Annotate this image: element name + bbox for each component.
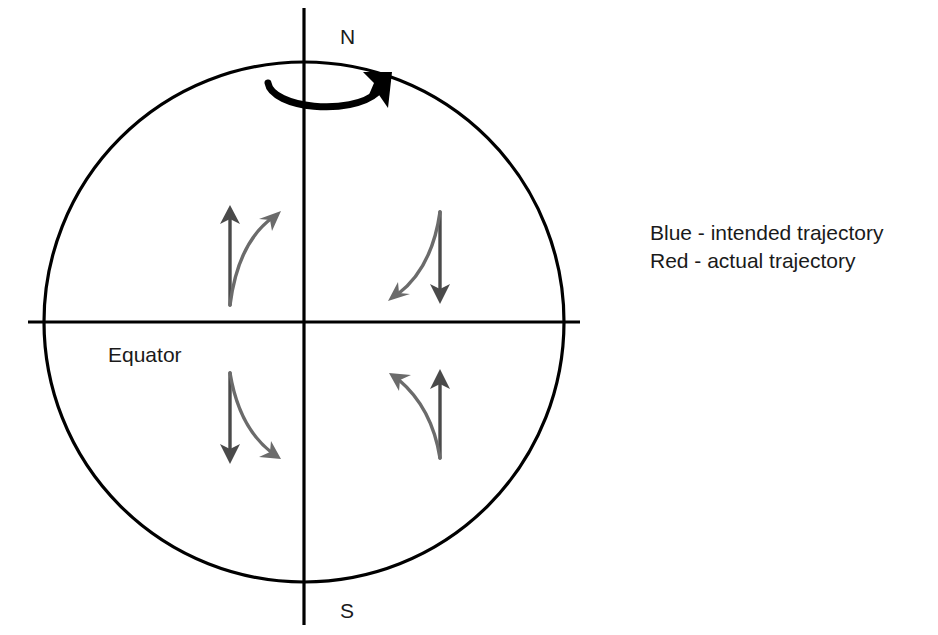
quadrant-sh-west xyxy=(220,373,281,464)
quadrant-nh-west xyxy=(220,205,281,305)
actual-trajectory-arrow-nh-west xyxy=(230,211,281,305)
intended-trajectory-arrow-sh-west xyxy=(220,373,240,464)
earth-rotation-arrow xyxy=(268,72,392,108)
equator-label: Equator xyxy=(108,343,182,366)
coriolis-effect-diagram: N S Equator xyxy=(0,0,938,635)
south-pole-label: S xyxy=(340,599,354,622)
north-pole-label: N xyxy=(340,25,355,48)
legend-item-actual: Red - actual trajectory xyxy=(650,249,856,272)
intended-trajectory-arrow-nh-west xyxy=(220,205,240,305)
intended-trajectory-arrow-nh-east xyxy=(430,212,450,304)
quadrant-nh-east xyxy=(388,212,450,304)
legend-item-intended: Blue - intended trajectory xyxy=(650,221,884,244)
rotation-arc xyxy=(268,83,378,107)
quadrant-sh-east xyxy=(389,369,450,458)
legend: Blue - intended trajectory Red - actual … xyxy=(650,221,884,272)
intended-trajectory-arrow-sh-east xyxy=(430,369,450,458)
